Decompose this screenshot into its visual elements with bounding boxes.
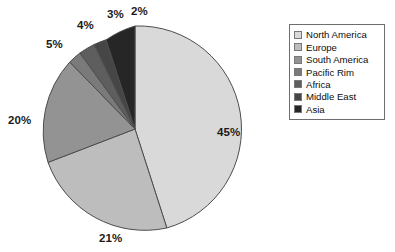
legend-label: Middle East xyxy=(306,91,356,102)
legend-item-pacific-rim[interactable]: Pacific Rim xyxy=(294,66,380,78)
legend-swatch-icon xyxy=(294,80,302,88)
legend-item-north-america[interactable]: North America xyxy=(294,29,380,41)
legend-swatch-icon xyxy=(294,68,302,76)
legend-label: South America xyxy=(306,54,368,65)
legend-item-asia[interactable]: Asia xyxy=(294,103,380,115)
pie-label-south-america: 20% xyxy=(8,114,31,126)
legend-item-europe[interactable]: Europe xyxy=(294,41,380,53)
legend-swatch-icon xyxy=(294,93,302,101)
pie-label-middle-east: 3% xyxy=(107,8,124,20)
legend-label: Pacific Rim xyxy=(306,67,354,78)
legend: North America Europe South America Pacif… xyxy=(289,24,385,120)
legend-swatch-icon xyxy=(294,56,302,64)
legend-label: Africa xyxy=(306,79,331,90)
legend-item-africa[interactable]: Africa xyxy=(294,79,380,91)
pie-label-europe: 21% xyxy=(99,232,122,244)
pie-label-africa: 4% xyxy=(77,19,94,31)
legend-swatch-icon xyxy=(294,105,302,113)
pie-label-north-america: 45% xyxy=(217,126,240,138)
pie-chart-figure: 45% 21% 20% 5% 4% 3% 2% North America Eu… xyxy=(0,0,395,252)
legend-swatch-icon xyxy=(294,31,302,39)
legend-item-south-america[interactable]: South America xyxy=(294,54,380,66)
legend-label: Europe xyxy=(306,42,337,53)
pie-label-asia: 2% xyxy=(131,5,148,17)
legend-label: Asia xyxy=(306,104,325,115)
pie-label-pacific-rim: 5% xyxy=(46,38,63,50)
pie-plot-area: 45% 21% 20% 5% 4% 3% 2% xyxy=(24,14,246,244)
legend-label: North America xyxy=(306,29,367,40)
legend-swatch-icon xyxy=(294,43,302,51)
legend-item-middle-east[interactable]: Middle East xyxy=(294,91,380,103)
